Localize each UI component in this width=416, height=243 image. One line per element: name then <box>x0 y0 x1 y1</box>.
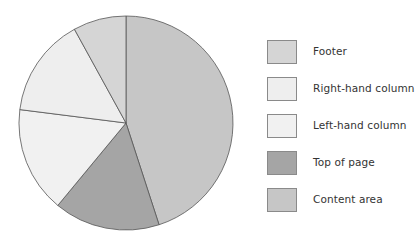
legend-label: Top of page <box>313 156 375 168</box>
legend-label: Footer <box>313 45 347 57</box>
legend-item-content-area: Content area <box>267 188 416 214</box>
legend-swatch <box>267 151 297 175</box>
legend-item-left-hand-column: Left-hand column <box>267 114 416 140</box>
legend-swatch <box>267 77 297 101</box>
legend-item-top-of-page: Top of page <box>267 151 416 177</box>
legend-label: Content area <box>313 193 383 205</box>
pie-chart <box>0 0 250 243</box>
legend-item-footer: Footer <box>267 40 416 66</box>
legend-swatch <box>267 40 297 64</box>
legend-label: Left-hand column <box>313 119 407 131</box>
legend-swatch <box>267 114 297 138</box>
legend-swatch <box>267 188 297 212</box>
legend-label: Right-hand column <box>313 82 415 94</box>
legend-item-right-hand-column: Right-hand column <box>267 77 416 103</box>
